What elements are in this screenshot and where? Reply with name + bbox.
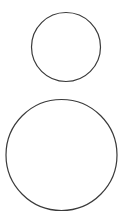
small-circle — [32, 13, 101, 82]
figure-canvas — [0, 0, 122, 222]
large-circle — [6, 100, 117, 211]
circles-svg — [0, 0, 122, 222]
